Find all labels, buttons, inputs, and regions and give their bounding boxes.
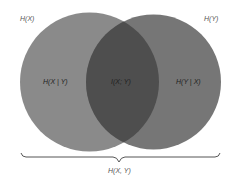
label-joint-entropy: H(X, Y) xyxy=(108,167,131,174)
label-hy: H(Y) xyxy=(204,15,218,22)
label-hy-given-x: H(Y | X) xyxy=(176,78,201,85)
label-hx-given-y: H(X | Y) xyxy=(43,78,68,85)
venn-diagram: H(X) H(Y) H(X | Y) I(X; Y) H(Y | X) H(X,… xyxy=(0,0,236,181)
brace-hxy xyxy=(21,153,220,162)
label-hx: H(X) xyxy=(20,15,34,22)
label-mutual-information: I(X; Y) xyxy=(111,78,131,85)
